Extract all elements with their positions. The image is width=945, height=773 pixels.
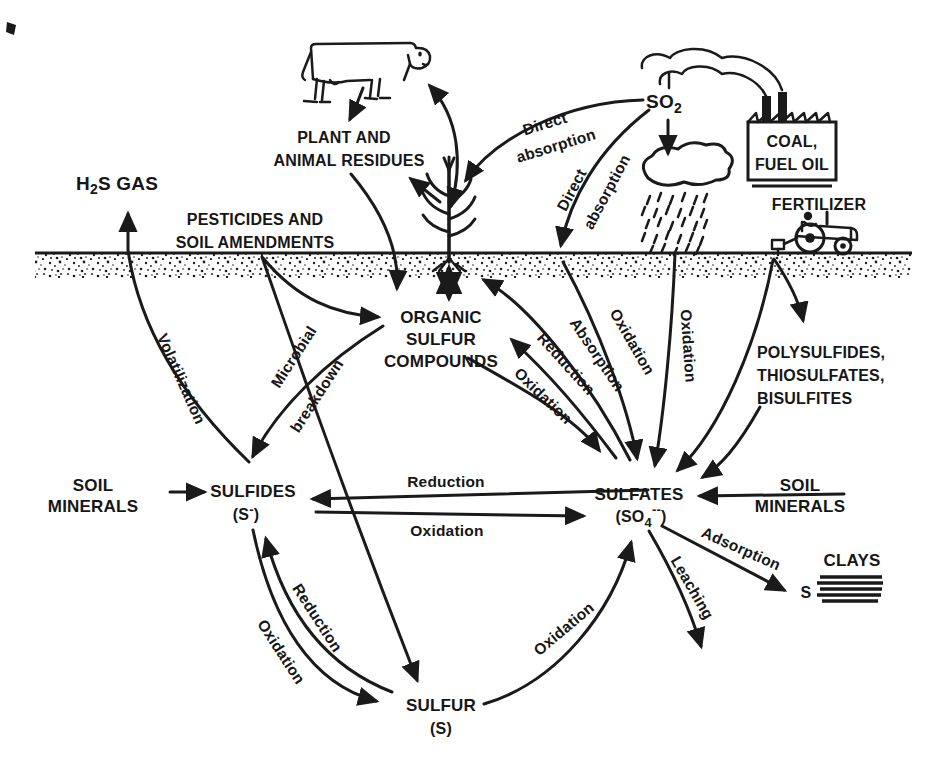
reduction-label: Reduction [407, 473, 485, 490]
soil-minerals-right-label: MINERALS [755, 497, 845, 516]
sulfur-cycle-figure: H2S GAS PLANT AND ANIMAL RESIDUES PESTIC… [0, 0, 945, 773]
arrow-rain-to-sulfates-oxidation [655, 254, 675, 465]
tractor-icon [772, 212, 857, 255]
smoke-lines [642, 49, 782, 96]
sulfur-label: SULFUR [406, 696, 476, 715]
cloud-rain-icon [642, 143, 732, 255]
flow-arrows [128, 86, 844, 704]
factory-chimney [778, 92, 787, 122]
clay-layers-icon [817, 577, 883, 601]
arrow-cow-to-residues [350, 88, 363, 119]
soil-minerals-left-label: SOIL [73, 476, 113, 495]
sulfides-formula: (S-) [233, 502, 259, 523]
arrow-volatilization-sulfides-to-h2s [128, 214, 249, 462]
plant-animal-residues-label: PLANT AND [297, 129, 391, 146]
coal-fuel-oil-label: FUEL OIL [755, 156, 829, 173]
arrow-sulfides-to-sulfates-oxidation [316, 512, 583, 516]
polysulfides-label: BISULFITES [757, 390, 852, 407]
so2-label: SO2 [646, 91, 682, 116]
leaching-label: Leaching [668, 553, 718, 622]
arrow-polysulfides-to-sulfates [703, 407, 760, 477]
oxidation-label: Oxidation [410, 522, 483, 539]
organic-sulfur-compounds-label: COMPOUNDS [384, 352, 498, 371]
scan-artifact [6, 22, 16, 35]
fertilizer-label: FERTILIZER [772, 196, 867, 213]
arrow-amendments-to-sulfur [262, 257, 417, 680]
rain-streaks [642, 193, 707, 255]
polysulfides-label: THIOSULFATES, [757, 367, 885, 384]
sulfur-cycle-diagram: H2S GAS PLANT AND ANIMAL RESIDUES PESTIC… [0, 0, 945, 773]
tractor-driver [804, 212, 812, 220]
oxidation-label: Oxidation [254, 616, 308, 687]
soil-band [35, 253, 912, 278]
coal-fuel-oil-label: COAL, [767, 133, 818, 150]
sulfates-label: SULFATES [594, 485, 683, 504]
factory-chimney [762, 96, 771, 122]
soil-texture [35, 254, 912, 278]
soil-minerals-left-label: MINERALS [48, 497, 138, 516]
soil-minerals-right-label: SOIL [780, 476, 820, 495]
sulfates-formula: (SO4--) [615, 502, 666, 530]
cow-icon [302, 43, 430, 102]
pesticides-amendments-label: SOIL AMENDMENTS [176, 234, 335, 251]
organic-sulfur-compounds-label: SULFUR [406, 330, 476, 349]
h2s-gas-label: H2S GAS [76, 173, 158, 197]
polysulfides-label: POLYSULFIDES, [757, 344, 885, 361]
pesticides-amendments-label: PESTICIDES AND [187, 211, 323, 228]
clays-label: CLAYS [823, 551, 880, 570]
direct-absorption-label: absorption [580, 152, 634, 232]
arrow-soil-minerals-right-to-sulfates [700, 494, 844, 496]
organic-sulfur-compounds-label: ORGANIC [400, 308, 482, 327]
adsorbed-s-label: S [801, 584, 812, 601]
direct-absorption-label: Direct [553, 166, 589, 214]
sulfur-formula: (S) [430, 720, 452, 737]
sulfides-label: SULFIDES [210, 482, 296, 501]
oxidation-label: Oxidation [677, 309, 699, 383]
volatilization-label: Volatilization [154, 331, 209, 427]
plant-animal-residues-label: ANIMAL RESIDUES [273, 152, 424, 169]
